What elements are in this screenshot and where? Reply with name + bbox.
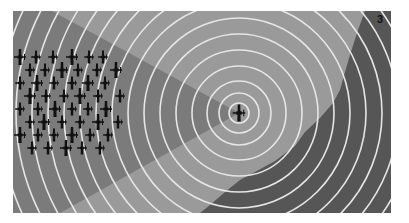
panel-number: 3	[377, 13, 383, 25]
illustration-frame: 3	[13, 11, 391, 213]
radar-illustration	[13, 11, 391, 213]
